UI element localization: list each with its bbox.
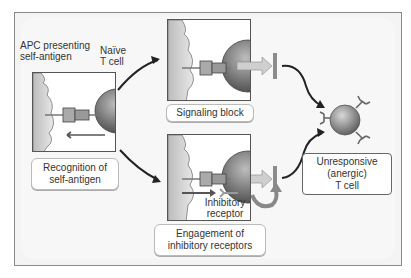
- signal-arrow-icon: [237, 57, 272, 75]
- anergic-tcell-caption: Unresponsive (anergic) T cell: [302, 153, 392, 195]
- block-bar-icon: [273, 53, 277, 79]
- arrow-to-signaling-block-icon: [118, 60, 158, 90]
- anergic-tcell-icon: [320, 96, 370, 144]
- inhibitory-receptor-label: Inhibitory receptor: [198, 197, 251, 219]
- arrow-to-inhibitory-icon: [120, 150, 158, 180]
- inhibitory-receptor-panel: Inhibitory receptor: [167, 134, 251, 221]
- engagement-caption: Engagement of inhibitory receptors: [154, 224, 266, 256]
- signaling-block-caption: Signaling block: [166, 104, 254, 122]
- inhibitory-signal-arrow-icon: [252, 190, 277, 206]
- arrow-to-anergic-icon: [282, 66, 322, 106]
